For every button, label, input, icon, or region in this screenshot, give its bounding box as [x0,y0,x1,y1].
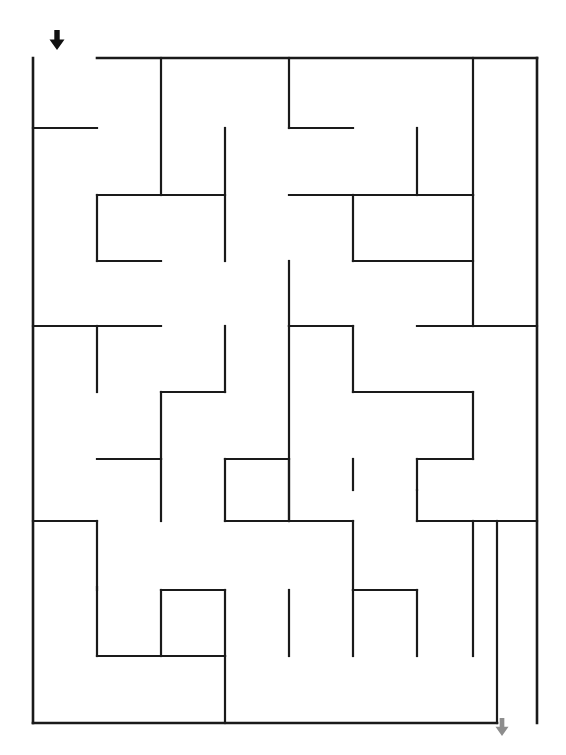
page-background [0,0,566,755]
maze-canvas [0,0,566,755]
maze-page: Maze Puzzle start finish [0,0,566,755]
